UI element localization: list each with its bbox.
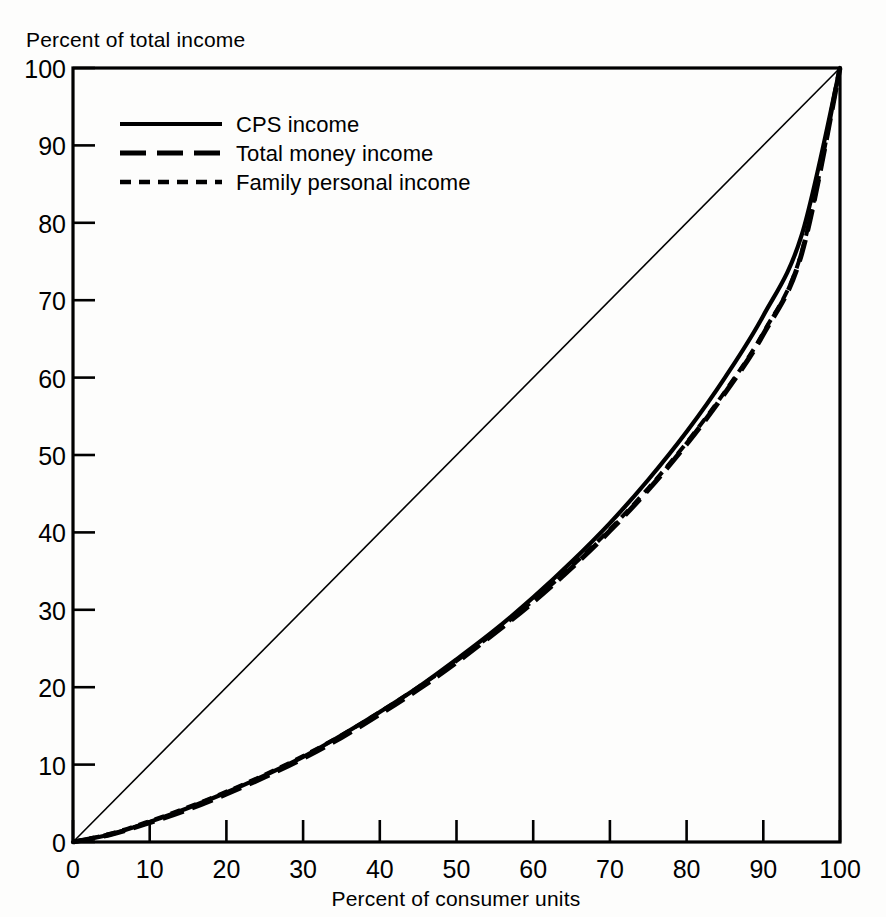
x-tick-label: 60	[519, 855, 547, 883]
y-tick-label: 80	[38, 210, 66, 238]
y-tick-label: 100	[24, 55, 66, 83]
x-axis-tick-labels: 0 10 20 30 40 50 60 70 80 90 100	[66, 855, 861, 883]
y-tick-label: 10	[38, 752, 66, 780]
y-tick-label: 60	[38, 365, 66, 393]
x-tick-label: 20	[212, 855, 240, 883]
y-axis-ticks	[73, 68, 95, 842]
x-tick-label: 0	[66, 855, 80, 883]
y-axis-title: Percent of total income	[26, 28, 245, 51]
legend-label-total-money-income: Total money income	[236, 141, 433, 166]
y-tick-label: 0	[52, 829, 66, 857]
x-tick-label: 10	[136, 855, 164, 883]
y-axis-tick-labels: 100 90 80 70 60 50 40 30 20 10 0	[24, 55, 66, 857]
x-tick-label: 50	[443, 855, 471, 883]
x-axis-ticks	[73, 820, 840, 842]
x-tick-label: 80	[673, 855, 701, 883]
x-tick-label: 30	[289, 855, 317, 883]
chart-canvas: Percent of total income 100 90 80 70 60 …	[0, 0, 886, 917]
x-tick-label: 40	[366, 855, 394, 883]
y-tick-label: 50	[38, 442, 66, 470]
lorenz-curve-figure: Percent of total income 100 90 80 70 60 …	[0, 0, 886, 917]
y-tick-label: 70	[38, 287, 66, 315]
x-axis-title: Percent of consumer units	[332, 887, 581, 910]
x-tick-label: 100	[819, 855, 861, 883]
x-tick-label: 70	[596, 855, 624, 883]
x-tick-label: 90	[749, 855, 777, 883]
y-tick-label: 30	[38, 597, 66, 625]
legend: CPS income Total money income Family per…	[120, 112, 471, 195]
y-tick-label: 40	[38, 519, 66, 547]
legend-label-family-personal-income: Family personal income	[236, 170, 471, 195]
y-tick-label: 90	[38, 132, 66, 160]
y-tick-label: 20	[38, 674, 66, 702]
legend-label-cps-income: CPS income	[236, 112, 359, 137]
